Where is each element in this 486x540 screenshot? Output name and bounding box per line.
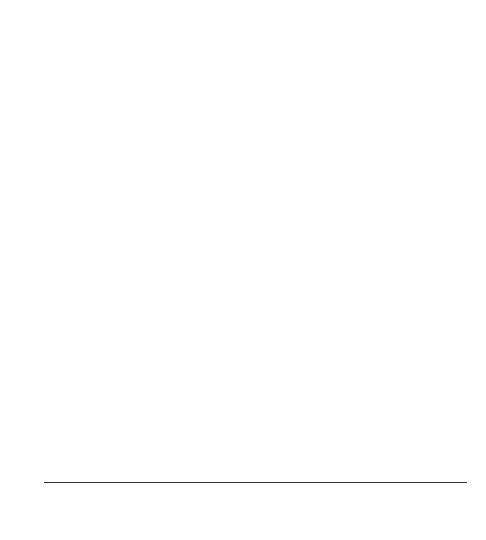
x-axis-line	[44, 482, 467, 483]
